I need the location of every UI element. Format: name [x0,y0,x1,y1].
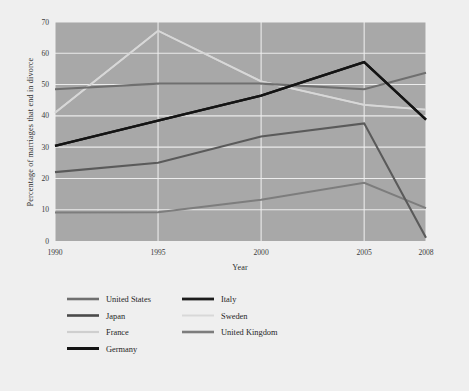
y-tick-label: 50 [41,80,49,89]
y-axis-title: Percentage of marriages that end in divo… [26,57,35,206]
y-tick-label: 0 [45,237,49,246]
figure-container: 010203040506070 19901995200020052008 Per… [0,0,469,391]
legend-label-italy: Italy [221,295,237,304]
y-tick-label: 30 [41,143,49,152]
x-tick-label: 1990 [47,248,62,257]
y-tick-label: 60 [41,49,49,58]
line-chart: 010203040506070 19901995200020052008 Per… [0,0,469,391]
x-tick-label: 2008 [418,248,433,257]
y-tick-label: 10 [41,205,49,214]
legend-label-france: France [106,328,129,337]
legend-label-united-states: United States [106,295,151,304]
legend-label-united-kingdom: United Kingdom [221,328,278,337]
y-tick-label: 70 [41,18,49,27]
y-tick-label: 40 [41,111,49,120]
x-tick-label: 1995 [150,248,165,257]
legend-label-sweden: Sweden [221,312,248,321]
x-tick-label: 2000 [254,248,269,257]
x-axis-title: Year [232,263,248,272]
y-tick-label: 20 [41,174,49,183]
legend-label-japan: Japan [106,312,126,321]
legend-label-germany: Germany [106,345,138,354]
x-tick-label: 2005 [357,248,372,257]
